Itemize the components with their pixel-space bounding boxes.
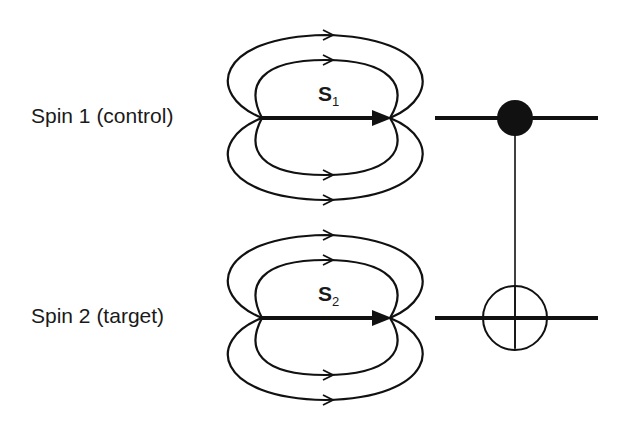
field-line-inner-top (256, 260, 398, 318)
field-line-inner-bottom (256, 318, 398, 375)
control-dot-icon (497, 100, 533, 136)
arrowhead-icon (372, 110, 392, 126)
field-line-inner-top (256, 60, 398, 118)
spin-1-vector-arrow (262, 110, 392, 126)
arrowhead-icon (372, 310, 392, 326)
diagram-canvas (0, 0, 632, 436)
field-line-inner-bottom (256, 118, 398, 175)
spin-2-vector-arrow (262, 310, 392, 326)
cnot-gate (435, 100, 598, 350)
